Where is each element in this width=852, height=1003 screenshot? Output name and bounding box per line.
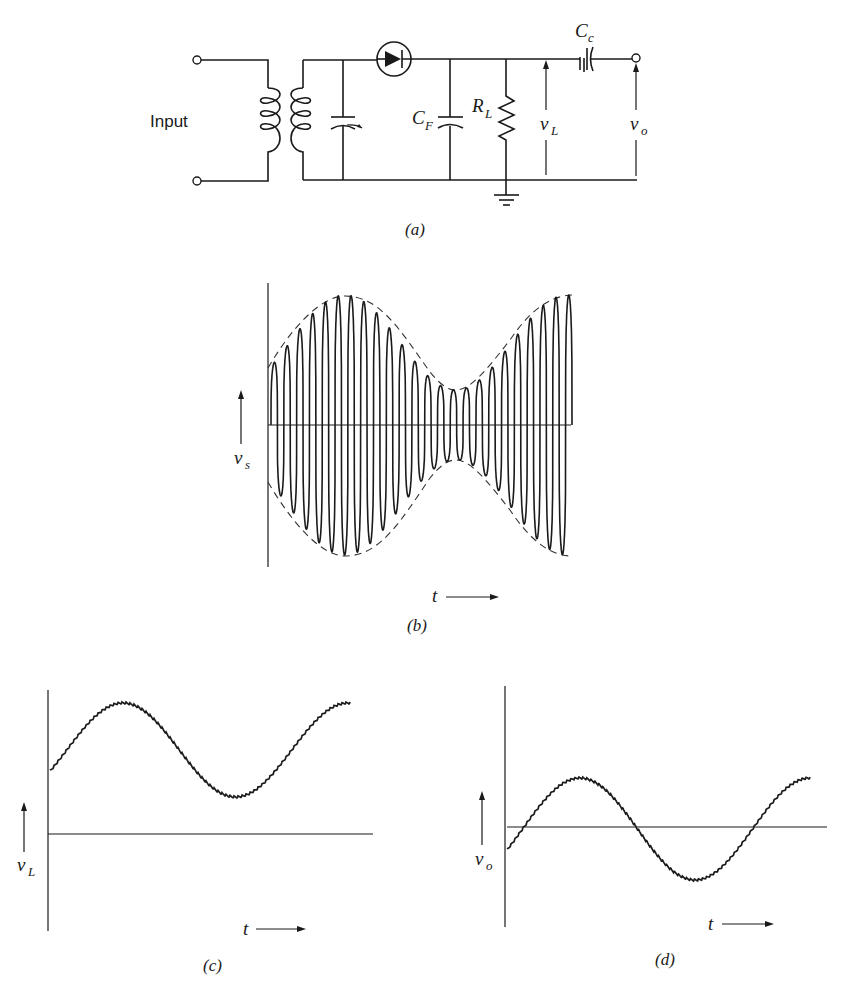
- coupling-capacitor-icon: [580, 47, 632, 72]
- panel-c-load-voltage: v L t (c): [17, 690, 373, 975]
- ground-icon: [494, 195, 519, 205]
- panel-b-x-arrow: [446, 594, 499, 600]
- input-terminal-top: [193, 56, 201, 64]
- panel-d-y-arrow: [479, 791, 485, 845]
- diode-icon: [377, 42, 411, 76]
- output-voltage-waveform: [507, 777, 810, 881]
- coupling-capacitor-subscript: c: [588, 30, 594, 45]
- panel-b-y-arrow: [238, 390, 244, 444]
- panel-b-x-label: t: [432, 585, 438, 606]
- panel-a-circuit: Input: [150, 20, 648, 239]
- input-label: Input: [150, 112, 188, 131]
- panel-b-y-subscript: s: [245, 457, 250, 472]
- load-voltage-label: v: [540, 113, 549, 134]
- output-terminal: [632, 54, 640, 62]
- detector-circuit-figure: Input: [0, 0, 852, 1003]
- panel-c-y-label: v: [17, 854, 26, 875]
- panel-d-y-label: v: [475, 848, 484, 869]
- upper-envelope: [268, 295, 572, 390]
- panel-c-x-arrow: [256, 926, 306, 932]
- panel-b-y-label: v: [234, 447, 243, 468]
- panel-d-x-arrow: [722, 921, 774, 927]
- load-resistor-subscript: L: [484, 106, 492, 121]
- panel-b-caption: (b): [407, 616, 427, 635]
- output-voltage-label: v: [630, 113, 639, 134]
- filter-capacitor-icon: [438, 59, 463, 180]
- panel-c-y-arrow: [21, 802, 27, 852]
- coupling-capacitor-label: C: [575, 20, 588, 41]
- panel-c-y-subscript: L: [27, 864, 35, 879]
- panel-d-x-label: t: [708, 913, 714, 934]
- output-voltage-subscript: o: [641, 123, 648, 138]
- panel-a-caption: (a): [405, 220, 425, 239]
- panel-d-y-subscript: o: [486, 858, 493, 873]
- transformer-secondary-coil: [291, 60, 311, 180]
- panel-c-caption: (c): [203, 956, 222, 975]
- transformer-primary-coil: [201, 60, 280, 181]
- load-voltage-waveform: [50, 702, 350, 798]
- variable-capacitor-icon: [331, 60, 362, 180]
- panel-c-x-label: t: [243, 918, 249, 939]
- input-terminal-bottom: [193, 177, 201, 185]
- load-resistor-label: R: [471, 95, 484, 116]
- panel-d-output-voltage: v o t (d): [475, 686, 827, 969]
- panel-d-caption: (d): [655, 950, 675, 969]
- top-rail-wire: [303, 59, 580, 60]
- load-voltage-subscript: L: [550, 123, 558, 138]
- filter-capacitor-subscript: F: [424, 118, 434, 133]
- filter-capacitor-label: C: [412, 107, 425, 128]
- load-resistor-icon: [499, 59, 514, 195]
- panel-b-am-waveform: v s t (b): [234, 283, 572, 635]
